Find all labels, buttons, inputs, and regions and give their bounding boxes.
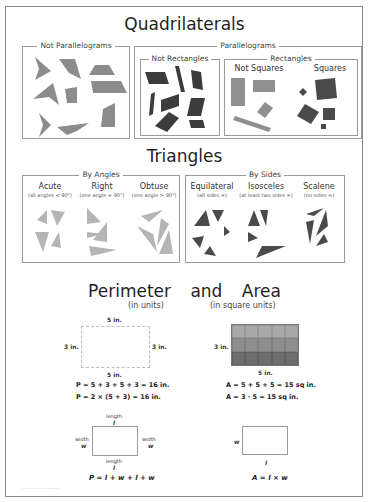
area-word: Area [242, 281, 281, 301]
perimeter-formula-1: P = 5 + 3 + 5 + 3 = 16 in. [76, 381, 169, 389]
perimeter-rectangle [81, 326, 150, 368]
area-units: (in square units) [210, 301, 276, 310]
l-bottom-label: l [113, 464, 115, 471]
parallelograms-box: Parallelograms Not Rectangles Rectangles… [134, 46, 362, 139]
and-word: and [190, 281, 222, 301]
side-triangle-shapes [186, 176, 346, 264]
area-formula-1: A = 5 + 5 + 5 = 15 sq in. [226, 381, 316, 389]
w-left-label: w [81, 442, 87, 449]
not-parallelogram-shapes [23, 47, 131, 140]
perimeter-left-label: 3 in. [64, 343, 79, 350]
area-formula-2: A = 3 · 5 = 15 sq in. [226, 393, 298, 401]
perimeter-formula-2: P = 2 × (5 + 3) = 16 in. [76, 393, 161, 401]
w-area-label: w [234, 438, 240, 445]
perimeter-area-title: Perimeter and Area [0, 281, 369, 301]
by-angles-box: By Angles Acute (all angles < 90°) Right… [22, 175, 180, 263]
quadrilaterals-title: Quadrilaterals [0, 14, 369, 34]
not-rectangles-box: Not Rectangles [140, 59, 220, 136]
area-bottom-label: 5 in. [258, 369, 273, 376]
perimeter-top-label: 5 in. [107, 316, 122, 323]
footer-credit: ——————————————— [22, 487, 60, 490]
not-rectangle-shapes [141, 60, 221, 137]
general-perimeter-rectangle [92, 426, 138, 456]
perimeter-right-label: 3 in. [152, 343, 167, 350]
perimeter-bottom-label: 5 in. [107, 371, 122, 378]
general-area-formula: A = l × w [252, 474, 288, 482]
l-top-label: l [113, 419, 115, 426]
angle-triangle-shapes [23, 176, 181, 264]
by-sides-box: By Sides Equilateral (all sides =) Isosc… [185, 175, 345, 263]
general-perimeter-formula: P = l + w + l + w [89, 474, 155, 482]
not-parallelograms-box: Not Parallelograms [22, 46, 130, 139]
perimeter-word: Perimeter [88, 281, 171, 301]
perimeter-units: (in units) [128, 301, 164, 310]
general-area-rectangle [242, 426, 288, 455]
w-right-label: w [148, 442, 154, 449]
rectangles-box: Rectangles Not Squares Squares [224, 59, 358, 136]
triangles-title: Triangles [0, 146, 369, 166]
rectangle-shapes [225, 60, 359, 137]
parallelograms-label: Parallelograms [217, 41, 279, 50]
area-side-label: 3 in. [214, 343, 229, 350]
area-grid [231, 324, 299, 366]
l-area-label: l [265, 459, 267, 466]
